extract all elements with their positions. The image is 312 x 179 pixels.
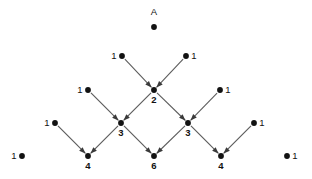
node-dot-r4-right-1 [251, 120, 257, 126]
node-label-r3-left-1: 1 [77, 84, 82, 95]
node-dot-r3-right-3 [185, 120, 191, 126]
node-label-r4-right-1: 1 [259, 117, 264, 128]
node-label-r5-far-right-1: 1 [292, 150, 297, 161]
apex-label: A [151, 6, 158, 17]
node-label-r2-center-2: 2 [151, 94, 156, 105]
lattice-canvas: A11211331146411 [0, 0, 312, 179]
nodes-layer [19, 24, 290, 159]
node-label-r2-left-1: 1 [111, 50, 116, 61]
node-dot-r5-left-4 [85, 153, 91, 159]
node-dot-r5-far-right-1 [284, 153, 290, 159]
node-label-r3-right-1: 1 [225, 84, 230, 95]
lattice-diagram: A11211331146411 [0, 0, 312, 179]
node-label-r2-right-1: 1 [191, 50, 196, 61]
node-label-r3-right-3: 3 [185, 127, 190, 138]
node-label-r5-left-4: 4 [85, 160, 91, 171]
node-dot-r2-right-1 [183, 53, 189, 59]
node-label-r4-left-1: 1 [44, 117, 49, 128]
node-dot-apex [151, 24, 157, 30]
node-label-r5-far-left-1: 1 [11, 150, 16, 161]
node-dot-r3-right-1 [217, 87, 223, 93]
node-label-r5-right-4: 4 [218, 160, 224, 171]
node-dot-r2-left-1 [119, 53, 125, 59]
edges-layer [58, 59, 251, 153]
node-dot-r3-left-1 [85, 87, 91, 93]
node-dot-r5-right-4 [218, 153, 224, 159]
node-label-r3-left-3: 3 [118, 127, 123, 138]
node-dot-r5-center-6 [151, 153, 157, 159]
node-label-r5-center-6: 6 [151, 160, 156, 171]
node-dot-r2-center-2 [151, 87, 157, 93]
node-dot-r3-left-3 [118, 120, 124, 126]
node-dot-r4-left-1 [52, 120, 58, 126]
node-dot-r5-far-left-1 [19, 153, 25, 159]
